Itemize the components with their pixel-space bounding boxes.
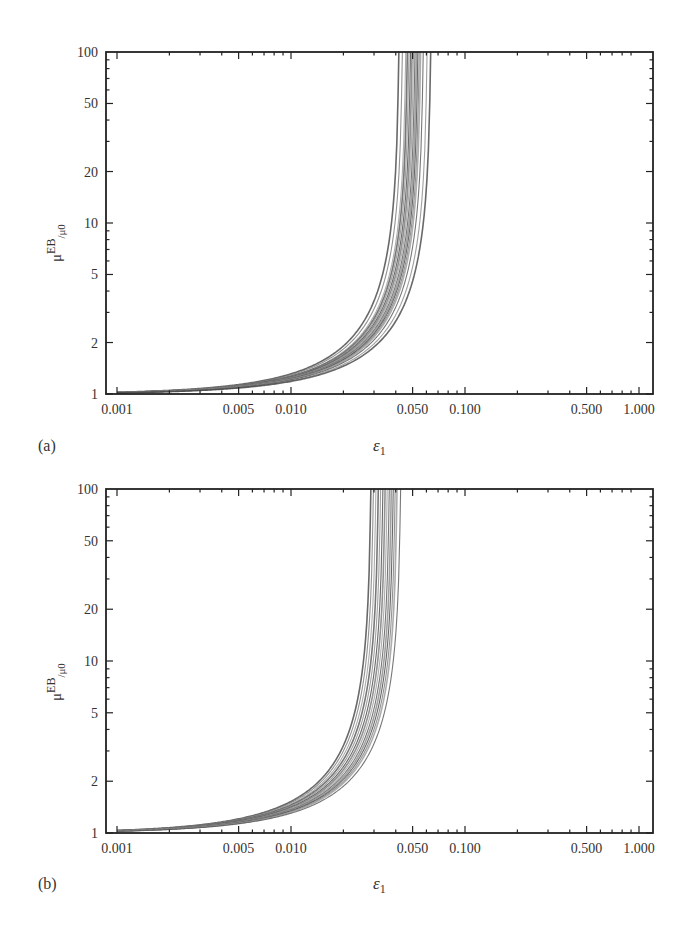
y-tick-label: 2: [91, 336, 98, 351]
x-tick-label: 0.010: [275, 402, 307, 417]
curve-family: [117, 22, 431, 393]
y-tick-label: 50: [84, 534, 98, 549]
x-axis: 0.0010.0050.0100.0500.1000.5001.000: [101, 52, 655, 417]
y-tick-label: 5: [91, 706, 98, 721]
x-tick-label: 0.100: [449, 402, 481, 417]
x-tick-label: 1.000: [623, 402, 655, 417]
plot-area-a: 0.0010.0050.0100.0500.1000.5001.00012510…: [0, 0, 692, 470]
data-curve: [117, 22, 431, 393]
x-tick-label: 0.005: [223, 841, 255, 856]
y-tick-label: 20: [84, 165, 98, 180]
chart-panel-b: 0.0010.0050.0100.0500.1000.5001.00012510…: [0, 437, 692, 877]
x-tick-label: 0.005: [223, 402, 255, 417]
plot-area-b: 0.0010.0050.0100.0500.1000.5001.00012510…: [0, 437, 692, 877]
panel-label-b: (b): [38, 875, 57, 893]
x-tick-label: 1.000: [623, 841, 655, 856]
y-tick-label: 10: [84, 216, 98, 231]
x-tick-label: 0.010: [275, 841, 307, 856]
y-axis-label-b: μEB/μ0: [44, 663, 67, 701]
y-tick-label: 100: [77, 482, 98, 497]
x-tick-label: 0.100: [449, 841, 481, 856]
x-tick-label: 0.001: [101, 841, 133, 856]
x-tick-label: 0.050: [397, 402, 429, 417]
y-tick-label: 5: [91, 267, 98, 282]
y-tick-label: 10: [84, 654, 98, 669]
x-tick-label: 0.050: [397, 841, 429, 856]
y-tick-label: 100: [77, 45, 98, 60]
data-curve: [117, 22, 399, 392]
x-tick-label: 0.500: [571, 402, 603, 417]
y-tick-label: 50: [84, 96, 98, 111]
data-curve: [117, 459, 398, 831]
x-tick-label: 0.500: [571, 841, 603, 856]
y-axis: 125102050100: [77, 482, 653, 841]
y-tick-label: 2: [91, 774, 98, 789]
chart-panel-a: 0.0010.0050.0100.0500.1000.5001.00012510…: [0, 0, 692, 470]
data-curve: [117, 22, 424, 393]
data-curve: [117, 22, 428, 393]
data-curve: [117, 459, 401, 832]
curve-family: [117, 459, 401, 832]
y-tick-label: 1: [91, 387, 98, 402]
y-axis-label-a: μEB/μ0: [44, 224, 67, 262]
x-tick-label: 0.001: [101, 402, 133, 417]
data-curve: [117, 22, 421, 393]
y-tick-label: 1: [91, 826, 98, 841]
data-curve: [117, 459, 394, 831]
x-axis-label-b: ε1: [373, 874, 386, 897]
y-tick-label: 20: [84, 602, 98, 617]
